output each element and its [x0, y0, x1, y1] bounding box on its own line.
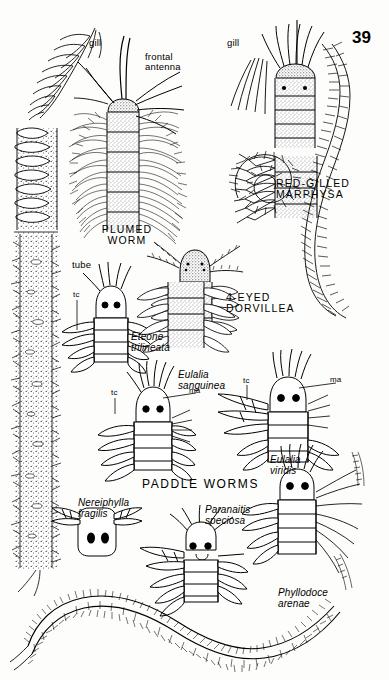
- eye: [282, 86, 286, 90]
- callout-frontal-antenna: frontal antenna: [145, 52, 181, 73]
- page-number: 39: [352, 28, 371, 48]
- species-nereiphylla: Nereiphylla fragilis: [78, 498, 129, 520]
- heading-paddle-worms: PADDLE WORMS: [142, 478, 259, 491]
- species-phyllodoce: Phyllodoce arenae: [278, 588, 328, 610]
- heading-4-eyed-dorvillea: 4-EYED DORVILLEA: [226, 292, 295, 315]
- callout-tc-viridis: tc: [243, 377, 250, 386]
- eulalia-viridis-head: [218, 349, 339, 470]
- callout-tube: tube: [72, 260, 91, 270]
- heading-plumed-worm: PLUMED WORM: [96, 224, 158, 247]
- species-eulalia-viridis: Eulalia viridis: [270, 455, 301, 477]
- tube-shaft: [14, 232, 58, 570]
- callout-ma-sanguinea: ma: [189, 387, 201, 396]
- marphysa-gill-tuft: [231, 58, 267, 114]
- field-guide-artwork: [0, 0, 389, 680]
- worm-tube-column: [11, 128, 61, 596]
- heading-red-gilled-marphysa: RED-GILLED MARPHYSA: [276, 178, 350, 201]
- species-paranaitis: Paranaitis speciosa: [205, 505, 250, 527]
- eye: [303, 86, 307, 90]
- callout-tc-eteone: tc: [73, 291, 80, 300]
- callout-ma-viridis: ma: [330, 376, 342, 385]
- illustration-page: 39 gill gill frontal antenna PLUMED WORM…: [0, 0, 389, 680]
- species-eteone: Eteone trilineata: [131, 332, 170, 354]
- callout-tc-sanguinea: tc: [111, 389, 118, 398]
- callout-gill-left: gill: [89, 38, 101, 48]
- species-eulalia-sanguinea: Eulalia sanguinea: [178, 370, 225, 392]
- callout-gill-right: gill: [227, 38, 239, 48]
